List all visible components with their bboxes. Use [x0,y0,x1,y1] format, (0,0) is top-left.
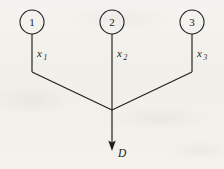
branch-2-label-base: x [116,47,122,59]
branch-2-label-subscript: 2 [124,53,128,62]
branch-1-label-subscript: 1 [44,53,48,62]
node-1-label: 1 [29,16,35,28]
output-label: D [117,147,127,159]
branch-3-diagonal-segment [112,72,192,110]
branch-1-label-base: x [36,47,42,59]
branch-3-label-base: x [196,47,202,59]
signal-flow-diagram: 1 x 1 2 x 2 3 x 3 D [0,0,224,169]
branch-2-group: 2 x 2 [100,10,128,110]
output-arrow-group: D [108,110,127,159]
node-3-label: 3 [189,16,195,28]
branch-3-label-subscript: 3 [203,53,208,62]
figure-canvas: 1 x 1 2 x 2 3 x 3 D [0,0,224,169]
branch-1-diagonal-segment [32,72,112,110]
node-2-label: 2 [109,16,115,28]
branch-1-group: 1 x 1 [20,10,112,110]
